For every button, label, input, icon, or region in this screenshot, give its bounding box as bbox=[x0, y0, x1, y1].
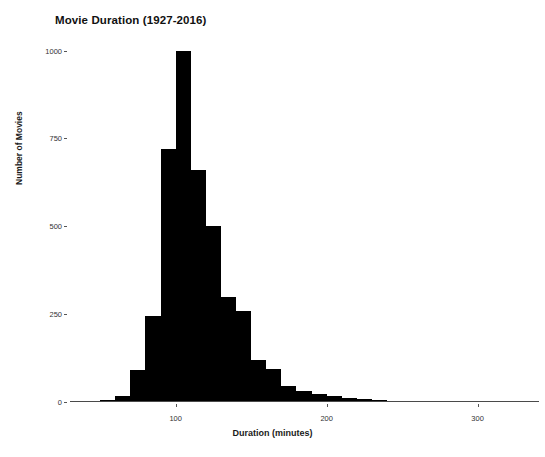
histogram-bar bbox=[236, 311, 251, 402]
x-axis-tick-label: 100 bbox=[169, 414, 182, 423]
histogram-bar bbox=[206, 226, 221, 402]
x-axis-tick-mark bbox=[176, 404, 177, 407]
histogram-bar bbox=[145, 316, 160, 402]
histogram-bars bbox=[70, 40, 538, 402]
histogram-bar bbox=[191, 170, 206, 402]
x-axis-tick-label: 300 bbox=[471, 414, 484, 423]
histogram-bar bbox=[251, 360, 266, 402]
y-axis-tick-mark bbox=[64, 226, 67, 227]
y-axis-tick-label: 750 bbox=[49, 134, 62, 143]
histogram-bar bbox=[130, 370, 145, 402]
x-axis-tick-label: 200 bbox=[320, 414, 333, 423]
y-axis-tick-label: 500 bbox=[49, 222, 62, 231]
histogram-bar bbox=[161, 149, 176, 402]
histogram-bar bbox=[281, 386, 296, 402]
x-axis-tick-mark bbox=[478, 404, 479, 407]
y-axis-tick-labels: 02505007501000 bbox=[0, 0, 62, 457]
x-axis-tick-mark bbox=[327, 404, 328, 407]
histogram-bar bbox=[221, 297, 236, 402]
y-axis-tick-label: 0 bbox=[58, 398, 62, 407]
y-axis-tick-mark bbox=[64, 51, 67, 52]
histogram-bar bbox=[266, 369, 281, 402]
y-axis-tick-mark bbox=[64, 138, 67, 139]
plot-area bbox=[70, 40, 538, 402]
chart-title: Movie Duration (1927-2016) bbox=[55, 14, 207, 26]
y-axis-tick-label: 250 bbox=[49, 310, 62, 319]
y-axis-tick-label: 1000 bbox=[45, 46, 62, 55]
x-axis-title: Duration (minutes) bbox=[0, 428, 545, 438]
histogram-chart: Movie Duration (1927-2016) 0250500750100… bbox=[0, 0, 545, 457]
y-axis-title: Number of Movies bbox=[14, 111, 24, 185]
x-axis-line bbox=[70, 401, 539, 402]
histogram-bar bbox=[176, 51, 191, 402]
y-axis-tick-mark bbox=[64, 314, 67, 315]
y-axis-tick-mark bbox=[64, 402, 67, 403]
